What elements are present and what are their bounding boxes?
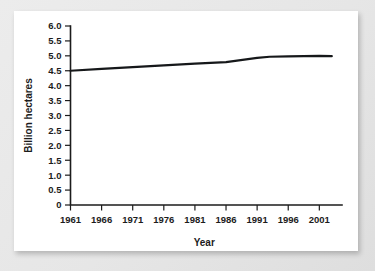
- y-axis-title: Billion hectares: [23, 78, 34, 153]
- y-tick-label: 5.5: [48, 35, 62, 46]
- x-axis-tick-labels: 196119661971197619811986199119962001: [60, 214, 331, 225]
- x-tick-label: 1991: [247, 214, 269, 225]
- data-series-line: [71, 56, 332, 71]
- x-tick-label: 1981: [184, 214, 206, 225]
- y-tick-label: 6.0: [48, 20, 61, 31]
- y-axis-tick-marks: [65, 26, 71, 205]
- y-tick-label: 4.0: [48, 80, 61, 91]
- y-tick-label: 1.0: [48, 170, 61, 181]
- x-tick-label: 1961: [60, 214, 82, 225]
- x-axis-title: Year: [194, 237, 215, 248]
- y-tick-label: 1.5: [48, 155, 62, 166]
- chart-axes: [71, 26, 343, 205]
- y-tick-label: 4.5: [48, 65, 62, 76]
- x-tick-label: 1966: [91, 214, 112, 225]
- y-tick-label: 2.0: [48, 140, 61, 151]
- y-tick-label: 5.0: [48, 50, 61, 61]
- x-tick-label: 1976: [153, 214, 174, 225]
- x-tick-label: 2001: [309, 214, 331, 225]
- y-tick-label: 0.5: [48, 184, 62, 195]
- y-axis-tick-labels: 00.51.01.52.02.53.03.54.04.55.05.56.0: [48, 20, 62, 210]
- x-tick-label: 1971: [122, 214, 144, 225]
- y-tick-label: 2.5: [48, 125, 62, 136]
- y-tick-label: 3.5: [48, 95, 62, 106]
- x-tick-label: 1986: [215, 214, 236, 225]
- y-tick-label: 0: [56, 199, 61, 210]
- chart-plot-wrapper: 00.51.01.52.02.53.03.54.04.55.05.56.0 19…: [0, 0, 375, 271]
- x-tick-label: 1996: [278, 214, 299, 225]
- figure-background: 00.51.01.52.02.53.03.54.04.55.05.56.0 19…: [0, 0, 375, 271]
- x-axis-tick-marks: [71, 205, 320, 211]
- line-chart: 00.51.01.52.02.53.03.54.04.55.05.56.0 19…: [0, 0, 375, 271]
- y-tick-label: 3.0: [48, 110, 61, 121]
